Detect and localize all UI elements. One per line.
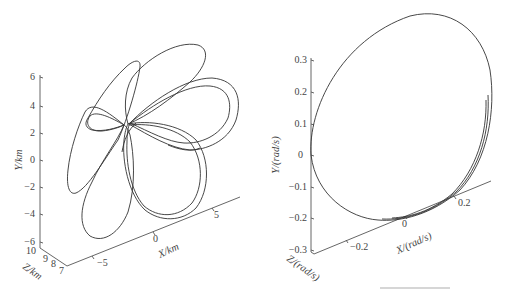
right-y-tick-label: 0.2 (295, 86, 308, 97)
left-y-tick-label: 4 (30, 100, 35, 111)
right-y-tick-label: −0.2 (289, 212, 307, 223)
left-y-axis-label: Y/km (13, 149, 24, 170)
right-z-axis (311, 252, 314, 254)
right-x-axis-label: X/(rad/s) (393, 230, 434, 258)
left-x-tick-label: −5 (97, 257, 108, 268)
right-x-tick-label: −0.2 (350, 241, 368, 252)
left-plot: 6 4 2 0 −2 −4 −6 Y/km 10 9 8 7 Z/km −5 0… (13, 44, 240, 282)
right-y-tick-label: 0.3 (295, 54, 308, 65)
left-y-tick-label: −4 (24, 208, 35, 219)
right-y-tick-label: 0 (298, 149, 303, 160)
left-x-tick-label: 5 (214, 209, 219, 220)
left-y-tick-label: −2 (24, 181, 35, 192)
left-z-tick-label: 8 (51, 258, 56, 269)
figure-canvas: 6 4 2 0 −2 −4 −6 Y/km 10 9 8 7 Z/km −5 0… (0, 0, 509, 293)
right-z-axis-label: Z/(rad/s) (284, 253, 322, 285)
right-y-axis-label: Y/(rad/s) (270, 136, 282, 174)
left-y-tick-label: 0 (30, 154, 35, 165)
right-y-tick-label: −0.1 (289, 181, 307, 192)
left-z-tick-label: 10 (26, 245, 36, 256)
left-x-axis (67, 197, 240, 266)
left-z-axis-label: Z/km (21, 261, 45, 282)
right-trajectory (311, 14, 492, 221)
right-plot: 0.3 0.2 0.1 0 −0.1 −0.2 −0.3 Y/(rad/s) Z… (270, 14, 492, 284)
left-z-tick-label: 7 (59, 265, 64, 276)
left-y-tick-label: 6 (30, 71, 35, 82)
right-x-tick-label: 0 (402, 218, 407, 229)
left-z-tick-label: 9 (43, 253, 48, 264)
left-y-tick-label: 2 (30, 127, 35, 138)
right-y-tick-label: 0.1 (295, 118, 308, 129)
left-x-axis-label: X/km (155, 241, 180, 261)
caption-fragment (380, 287, 450, 289)
right-x-tick-label: 0.2 (458, 197, 471, 208)
left-x-tick-label: 0 (153, 233, 158, 244)
